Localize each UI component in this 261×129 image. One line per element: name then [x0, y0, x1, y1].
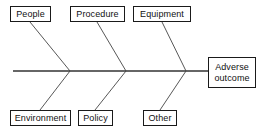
cause-box-other[interactable]: Other	[143, 110, 177, 126]
cause-label-equipment: Equipment	[140, 9, 184, 19]
cause-label-other: Other	[148, 113, 171, 123]
effect-label-line2: outcome	[214, 73, 249, 84]
cause-label-environment: Environment	[15, 113, 67, 123]
rib-environment-line	[40, 71, 70, 110]
cause-box-environment[interactable]: Environment	[10, 110, 71, 126]
cause-label-procedure: Procedure	[76, 9, 118, 19]
cause-label-policy: Policy	[83, 113, 108, 123]
cause-label-people: People	[16, 9, 45, 19]
rib-people-line	[30, 22, 70, 71]
cause-box-people[interactable]: People	[10, 6, 51, 22]
cause-box-policy[interactable]: Policy	[78, 110, 113, 126]
rib-other-line	[160, 71, 186, 110]
effect-box-adverse-outcome[interactable]: Adverse outcome	[208, 57, 256, 88]
cause-box-equipment[interactable]: Equipment	[133, 6, 191, 22]
rib-procedure-line	[97, 22, 126, 71]
cause-box-procedure[interactable]: Procedure	[70, 6, 125, 22]
rib-policy-line	[95, 71, 126, 110]
effect-label-line1: Adverse	[215, 62, 249, 73]
fishbone-diagram: People Procedure Equipment Environment P…	[0, 0, 261, 129]
rib-equipment-line	[162, 22, 186, 71]
